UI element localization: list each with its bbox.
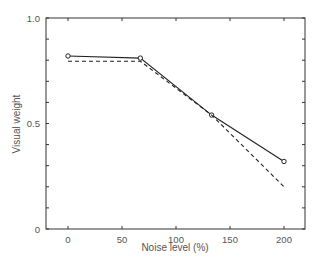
data-point-marker — [282, 159, 286, 163]
axes-frame — [46, 18, 305, 229]
chart-svg: 05010015020000.51.0 Noise level (%) Visu… — [0, 0, 324, 270]
y-tick-label: 0.5 — [27, 118, 40, 129]
data-series — [66, 54, 286, 187]
x-axis-label: Noise level (%) — [141, 242, 208, 253]
x-tick-label: 50 — [117, 234, 128, 245]
plot-frame — [46, 18, 305, 229]
y-axis-label: Visual weight — [11, 94, 22, 153]
y-tick-label: 0 — [35, 224, 40, 235]
axis-ticks: 05010015020000.51.0 — [27, 13, 305, 246]
x-tick-label: 150 — [222, 234, 238, 245]
data-point-marker — [66, 54, 70, 58]
y-tick-label: 1.0 — [27, 13, 40, 24]
x-tick-label: 0 — [65, 234, 70, 245]
series-dashed-line — [68, 61, 284, 187]
data-point-marker — [138, 56, 142, 60]
x-tick-label: 200 — [276, 234, 292, 245]
series-solid-line — [68, 56, 284, 162]
line-chart: 05010015020000.51.0 Noise level (%) Visu… — [0, 0, 324, 270]
